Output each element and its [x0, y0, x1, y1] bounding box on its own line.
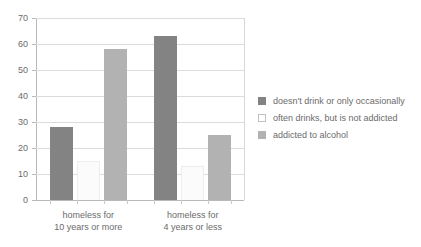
y-tick-label: 20 [0, 144, 28, 153]
bar [104, 49, 127, 200]
bar [181, 166, 204, 200]
x-tick-mark [181, 200, 182, 204]
x-tick-mark [127, 200, 128, 204]
x-tick-mark [154, 200, 155, 204]
y-tick-label: 60 [0, 40, 28, 49]
y-tick-label: 10 [0, 170, 28, 179]
legend-item[interactable]: doesn't drink or only occasionally [258, 94, 418, 108]
x-tick-mark [77, 200, 78, 204]
bar-chart: 010203040506070 homeless for10 years or … [0, 0, 421, 247]
x-category-label: homeless for10 years or more [33, 209, 143, 233]
x-category-label: homeless for4 years or less [138, 209, 248, 233]
gridline [36, 18, 244, 19]
y-tick-label: 0 [0, 196, 28, 205]
x-tick-mark [231, 200, 232, 204]
bar [50, 127, 73, 200]
gridline [36, 200, 244, 201]
y-tick-label: 70 [0, 14, 28, 23]
legend-swatch-icon [258, 131, 266, 139]
legend-item[interactable]: addicted to alcohol [258, 128, 418, 142]
legend-label: often drinks, but is not addicted [273, 113, 398, 123]
gridline [36, 122, 244, 123]
legend: doesn't drink or only occasionallyoften … [258, 94, 418, 145]
x-category-label-line2: 10 years or more [33, 221, 143, 233]
x-category-label-line1: homeless for [33, 209, 143, 221]
y-tick-label: 50 [0, 66, 28, 75]
legend-label: doesn't drink or only occasionally [273, 96, 405, 106]
legend-swatch-icon [258, 114, 266, 122]
gridline [36, 96, 244, 97]
legend-label: addicted to alcohol [273, 130, 348, 140]
y-tick-label: 30 [0, 118, 28, 127]
x-tick-mark [208, 200, 209, 204]
bar [154, 36, 177, 200]
gridline [36, 44, 244, 45]
x-tick-mark [104, 200, 105, 204]
bar [77, 161, 100, 200]
x-category-label-line1: homeless for [138, 209, 248, 221]
bar [208, 135, 231, 200]
plot-area [36, 18, 245, 200]
legend-item[interactable]: often drinks, but is not addicted [258, 111, 418, 125]
legend-swatch-icon [258, 97, 266, 105]
gridline [36, 70, 244, 71]
x-category-label-line2: 4 years or less [138, 221, 248, 233]
y-tick-label: 40 [0, 92, 28, 101]
x-tick-mark [50, 200, 51, 204]
